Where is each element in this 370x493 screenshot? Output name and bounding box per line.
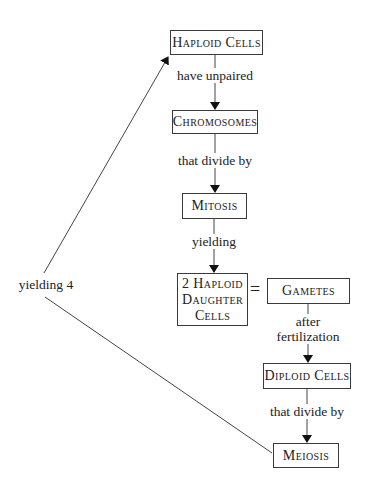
node-2-haploid-daughter-cells: 2 Haploid Daughter Cells (177, 273, 248, 326)
after-text: after (262, 314, 354, 329)
node-mitosis: Mitosis (182, 193, 247, 219)
edge-label-that-divide-by-1: that divide by (172, 153, 258, 168)
node-meiosis: Meiosis (273, 443, 339, 468)
edge-label-have-unpaired: have unpaired (172, 68, 258, 83)
node-diploid-cells: Diploid Cells (263, 363, 351, 389)
edge-label-that-divide-by-2: that divide by (264, 404, 350, 419)
edge-label-after-fertilization: after fertilization (262, 314, 354, 344)
daughter-line-1: 2 Haploid (182, 276, 243, 292)
node-gametes: Gametes (267, 278, 350, 304)
daughter-line-2: Daughter (182, 292, 243, 308)
equals-sign: = (250, 279, 260, 300)
node-chromosomes: Chromosomes (172, 110, 258, 134)
fertilization-text: fertilization (262, 329, 354, 344)
edge-label-yielding: yielding (184, 234, 244, 249)
edge-label-yielding-4: yielding 4 (18, 277, 74, 292)
node-haploid-cells: Haploid Cells (170, 30, 263, 55)
daughter-line-3: Cells (195, 308, 230, 324)
